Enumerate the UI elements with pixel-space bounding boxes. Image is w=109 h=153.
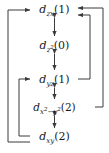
orbital-occupancy: (1): [54, 3, 70, 16]
orbital-subscript: xy: [46, 137, 54, 145]
orbital-occupancy: (2): [61, 101, 76, 113]
orbital-occupancy: (1): [54, 73, 70, 86]
orbital-node-dxy: dxy(2): [0, 131, 109, 145]
orbital-subscript-y: −y: [47, 108, 57, 116]
orbital-symbol: d: [40, 39, 47, 52]
orbital-subscript: x2−y2: [40, 108, 61, 116]
orbital-subscript: z2: [47, 46, 54, 54]
orbital-occupancy: (2): [54, 130, 70, 143]
orbital-node-dz2: dz2(0): [0, 40, 109, 54]
orbital-coupling-diagram: dzx(1) dz2(0) dyz(1) dx2−y2(2) dxy(2): [0, 0, 109, 153]
orbital-node-dx2y2: dx2−y2(2): [0, 102, 109, 116]
orbital-node-dzx: dzx(1): [0, 4, 109, 18]
orbital-node-dyz: dyz(1): [0, 74, 109, 88]
orbital-occupancy: (0): [54, 39, 70, 52]
orbital-subscript: zx: [46, 10, 54, 18]
orbital-subscript: yz: [46, 80, 54, 88]
